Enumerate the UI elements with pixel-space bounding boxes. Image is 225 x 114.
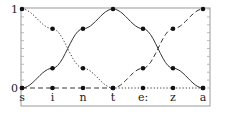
curve-dashed (22, 9, 203, 88)
curve-dotted (22, 9, 203, 88)
x-label: a (200, 91, 207, 104)
data-point (171, 66, 176, 71)
data-point (50, 66, 55, 71)
y-label-0: 0 (11, 82, 18, 95)
data-point (141, 66, 146, 71)
data-point (81, 86, 86, 91)
data-point (111, 86, 116, 91)
data-points (20, 7, 206, 91)
x-axis-labels: sinte:za (19, 91, 207, 104)
x-label: i (51, 91, 55, 104)
y-label-1: 1 (11, 3, 18, 16)
data-point (81, 66, 86, 71)
y-axis-ticks (21, 9, 210, 88)
data-point (201, 86, 206, 91)
x-label: n (79, 91, 86, 104)
x-label: s (19, 91, 25, 104)
data-point (50, 26, 55, 31)
x-label: t (111, 91, 116, 104)
x-label: e: (138, 91, 148, 104)
y-axis-labels: 10 (11, 3, 18, 95)
data-point (50, 86, 55, 91)
data-point (171, 86, 176, 91)
plot-frame (21, 8, 210, 106)
data-point (111, 7, 116, 12)
curve-solid (22, 9, 203, 88)
data-point (201, 7, 206, 12)
line-chart: 10 sinte:za (0, 0, 225, 114)
data-point (81, 26, 86, 31)
data-point (141, 26, 146, 31)
data-point (171, 26, 176, 31)
data-point (20, 7, 25, 12)
data-point (141, 86, 146, 91)
data-point (20, 86, 25, 91)
x-label: z (170, 91, 176, 104)
series-curves (22, 9, 203, 88)
